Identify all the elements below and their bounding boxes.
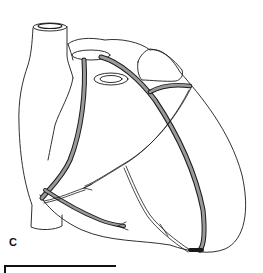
panel-label: C — [9, 236, 17, 248]
aorta — [19, 23, 73, 230]
heart-illustration — [0, 0, 263, 273]
scale-bar — [4, 265, 116, 267]
scale-bar-tick — [4, 265, 6, 273]
